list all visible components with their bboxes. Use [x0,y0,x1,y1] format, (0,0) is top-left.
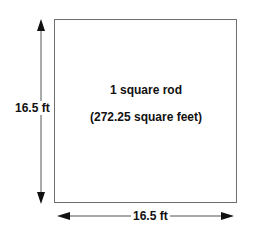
arrow-up-icon [37,19,45,31]
arrow-left-icon [57,212,70,220]
height-label: 16.5 ft [14,101,51,115]
area-sub-label: (272.25 square feet) [54,110,238,124]
arrow-right-icon [221,212,234,220]
arrow-down-icon [37,192,45,204]
width-label: 16.5 ft [131,209,170,223]
area-label: 1 square rod [54,83,238,97]
